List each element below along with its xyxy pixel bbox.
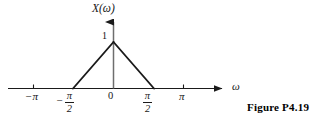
- tick-label-neg-half-pi: − π 2: [56, 90, 74, 114]
- tick-label-zero: 0: [108, 91, 113, 102]
- triangle-falling-edge: [114, 42, 155, 89]
- tick-label-pi: π: [179, 91, 185, 102]
- fraction-denominator-neg-half-pi: 2: [66, 103, 73, 114]
- fraction-stack-half-pi: π 2: [143, 90, 152, 114]
- x-axis-title: ω: [232, 81, 240, 92]
- figure-caption: Figure P4.19: [247, 101, 309, 113]
- fraction-stack-neg-half-pi: π 2: [65, 90, 74, 114]
- y-axis-title: X(ω): [92, 3, 115, 15]
- peak-value-label: 1: [102, 31, 107, 41]
- tick-label-neg-pi: −π: [25, 91, 38, 102]
- tick-label-half-pi: π 2: [143, 90, 152, 114]
- figure-container: X(ω) 1 0 −π π − π 2 π 2 ω Figure P4.19: [0, 0, 325, 132]
- fraction-numerator-half-pi: π: [144, 90, 151, 101]
- triangle-rising-edge: [73, 42, 114, 89]
- fraction-numerator-neg-half-pi: π: [66, 90, 73, 101]
- fraction-sign-neg-half-pi: −: [56, 90, 63, 106]
- fraction-denominator-half-pi: 2: [144, 103, 151, 114]
